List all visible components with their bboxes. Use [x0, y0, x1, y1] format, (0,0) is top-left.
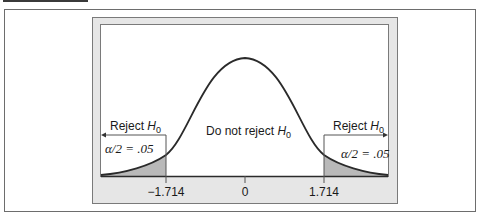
- reject-label-right: Reject H0: [333, 119, 384, 135]
- tick-label-neg: −1.714: [147, 185, 184, 199]
- alpha-label-right: α/2 = .05: [341, 146, 390, 161]
- t-distribution-chart: Reject H0 Reject H0 Do not reject H0 α/2…: [0, 0, 482, 216]
- do-not-reject-label: Do not reject H0: [206, 124, 291, 140]
- reject-label-left: Reject H0: [110, 119, 161, 135]
- tick-label-zero: 0: [242, 185, 249, 199]
- tick-label-pos: 1.714: [309, 185, 339, 199]
- alpha-label-left: α/2 = .05: [105, 141, 154, 156]
